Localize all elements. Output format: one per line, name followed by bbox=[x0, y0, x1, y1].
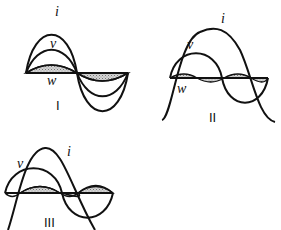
diagram-II-label: II bbox=[209, 111, 216, 124]
phase-power-diagrams: i v w I i v w II i v III bbox=[0, 0, 281, 230]
diagram-I-label: I bbox=[56, 99, 60, 112]
label-v-diagram-III: v bbox=[17, 157, 23, 171]
label-v-diagram-I: v bbox=[50, 37, 56, 51]
diagram-III-label: III bbox=[44, 216, 55, 229]
label-i-diagram-I: i bbox=[55, 5, 59, 19]
label-i-diagram-II: i bbox=[221, 12, 225, 26]
waveform-canvas bbox=[0, 0, 281, 230]
label-i-diagram-III: i bbox=[67, 145, 71, 159]
label-w-diagram-II: w bbox=[177, 82, 186, 96]
diagram-I bbox=[26, 35, 128, 112]
label-w-diagram-I: w bbox=[47, 74, 56, 88]
label-v-diagram-II: v bbox=[187, 38, 193, 52]
diagram-II bbox=[162, 29, 275, 122]
